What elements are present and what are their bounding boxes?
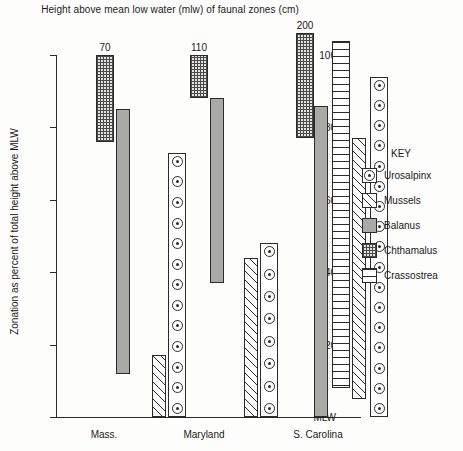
- legend-item-urosalpinx: Urosalpinx: [362, 168, 462, 183]
- mussels-swatch-icon: [362, 193, 377, 208]
- balanus-swatch-icon: [362, 218, 377, 233]
- bar-chthamalus-maryland: [190, 55, 208, 98]
- bar-chthamalus-mass: [96, 55, 114, 142]
- faunal-zonation-chart: Height above mean low water (mlw) of fau…: [0, 0, 463, 451]
- urosalpinx-dot-icon: [172, 403, 183, 414]
- plot-area: 10080604020MLW 70110200 Mass.MarylandS. …: [56, 55, 346, 417]
- urosalpinx-dot-icon: [374, 363, 385, 374]
- urosalpinx-dot-icon: [264, 358, 275, 369]
- chthamalus-swatch-icon: [362, 243, 377, 258]
- bar-mussels-mass: [152, 355, 166, 417]
- urosalpinx-dot-icon: [374, 302, 385, 313]
- y-tick-mark: [50, 272, 56, 273]
- urosalpinx-swatch-icon: [362, 168, 377, 183]
- y-axis-line: [56, 55, 57, 417]
- urosalpinx-dot-icon: [374, 322, 385, 333]
- bar-balanus-s-carolina: [314, 106, 328, 417]
- x-axis-group-label: Mass.: [91, 429, 118, 440]
- bar-crassostrea-s-carolina: [332, 41, 350, 389]
- y-tick-mark: [50, 55, 56, 56]
- chart-title: Height above mean low water (mlw) of fau…: [0, 4, 340, 15]
- legend-item-label: Balanus: [384, 220, 420, 231]
- bar-value-label: 70: [99, 42, 110, 53]
- urosalpinx-dot-icon: [172, 238, 183, 249]
- urosalpinx-dot-icon: [264, 246, 275, 257]
- y-tick-mark: [50, 417, 56, 418]
- bar-urosalpinx-maryland: [260, 243, 278, 417]
- urosalpinx-dot-icon: [374, 80, 385, 91]
- legend-items: UrosalpinxMusselsBalanusChthamalusCrasso…: [362, 168, 462, 283]
- bar-value-label: 200: [297, 20, 314, 31]
- legend-item-crassostrea: Crassostrea: [362, 268, 462, 283]
- urosalpinx-dot-icon: [264, 291, 275, 302]
- urosalpinx-dot-icon: [172, 156, 183, 167]
- bar-urosalpinx-mass: [168, 153, 186, 417]
- x-axis-group-label: S. Carolina: [293, 429, 342, 440]
- legend-item-label: Chthamalus: [384, 245, 437, 256]
- urosalpinx-dot-icon: [374, 100, 385, 111]
- urosalpinx-dot-icon: [172, 320, 183, 331]
- urosalpinx-dot-icon: [374, 383, 385, 394]
- x-axis-group-label: Maryland: [183, 429, 224, 440]
- legend-item-balanus: Balanus: [362, 218, 462, 233]
- urosalpinx-dot-icon: [374, 342, 385, 353]
- legend-item-chthamalus: Chthamalus: [362, 243, 462, 258]
- urosalpinx-dot-icon: [172, 300, 183, 311]
- y-tick-label: MLW: [290, 412, 336, 423]
- y-axis-label: Zonation as percent of total height abov…: [9, 67, 20, 397]
- y-axis-label-wrapper: Zonation as percent of total height abov…: [2, 55, 18, 417]
- urosalpinx-dot-icon: [172, 341, 183, 352]
- urosalpinx-dot-icon: [264, 336, 275, 347]
- y-tick-label: 60: [290, 194, 336, 205]
- urosalpinx-dot-icon: [172, 279, 183, 290]
- urosalpinx-dot-icon: [172, 259, 183, 270]
- legend-item-mussels: Mussels: [362, 193, 462, 208]
- urosalpinx-dot-icon: [264, 269, 275, 280]
- legend-item-label: Urosalpinx: [384, 170, 431, 181]
- urosalpinx-dot-icon: [172, 362, 183, 373]
- urosalpinx-dot-icon: [264, 313, 275, 324]
- y-tick-mark: [50, 345, 56, 346]
- urosalpinx-dot-icon: [172, 176, 183, 187]
- urosalpinx-dot-icon: [374, 120, 385, 131]
- bar-mussels-maryland: [244, 258, 258, 417]
- bar-chthamalus-s-carolina: [296, 33, 314, 138]
- urosalpinx-dot-icon: [374, 403, 385, 414]
- crassostrea-swatch-icon: [362, 268, 377, 283]
- legend-item-label: Crassostrea: [384, 270, 438, 281]
- y-tick-label: 20: [290, 339, 336, 350]
- urosalpinx-dot-column: [261, 244, 277, 416]
- y-tick-mark: [50, 127, 56, 128]
- y-tick-label: 40: [290, 267, 336, 278]
- urosalpinx-dot-column: [169, 154, 185, 416]
- y-tick-mark: [50, 200, 56, 201]
- urosalpinx-dot-icon: [172, 197, 183, 208]
- legend: KEY UrosalpinxMusselsBalanusChthamalusCr…: [362, 148, 462, 293]
- legend-title: KEY: [362, 148, 440, 159]
- bar-balanus-mass: [116, 109, 130, 373]
- urosalpinx-dot-icon: [364, 170, 375, 181]
- bar-value-label: 110: [191, 42, 207, 53]
- urosalpinx-dot-icon: [172, 218, 183, 229]
- bar-balanus-maryland: [210, 98, 224, 283]
- urosalpinx-dot-icon: [264, 403, 275, 414]
- urosalpinx-dot-icon: [264, 381, 275, 392]
- urosalpinx-dot-icon: [172, 382, 183, 393]
- legend-item-label: Mussels: [384, 195, 421, 206]
